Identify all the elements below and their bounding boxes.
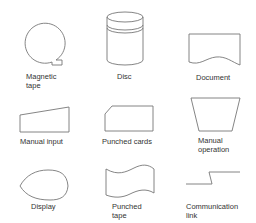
punched-tape-label: Punched tape [112,202,142,220]
punched-cards-symbol [105,106,153,131]
symbols-canvas [0,0,256,223]
manual-input-label: Manual input [20,137,63,146]
communication-link-label: Communication link [186,202,238,220]
document-label: Document [196,73,230,82]
display-label: Display [31,202,56,211]
disc-label: Disc [117,72,132,81]
disc-symbol [107,12,143,65]
document-symbol [189,34,240,65]
manual-operation-label: Manual operation [198,136,229,154]
magnetic-tape-symbol [25,23,65,65]
punched-tape-symbol [106,165,154,197]
manual-input-symbol [20,107,69,132]
manual-operation-symbol [191,98,240,131]
display-symbol [20,170,68,200]
communication-link-symbol [186,172,240,184]
punched-cards-label: Punched cards [102,137,152,146]
magnetic-tape-label: Magnetic tape [26,72,56,90]
